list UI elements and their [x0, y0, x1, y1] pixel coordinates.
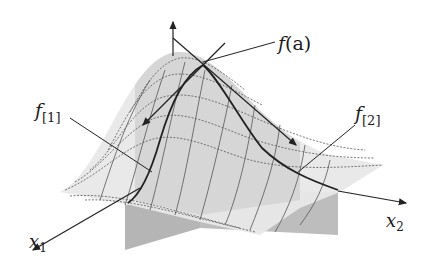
surface-diagram: f(a) f[1] f[2] x1 x2: [0, 0, 435, 265]
label-f1: f[1]: [33, 99, 60, 125]
axis-x2: [338, 191, 406, 203]
axis-x1: [33, 188, 140, 250]
label-f-a: f(a): [276, 32, 311, 54]
label-x2: x2: [386, 210, 404, 234]
leader-f-a: [203, 42, 275, 62]
label-f2: f[2]: [353, 102, 380, 128]
label-x1: x1: [29, 231, 47, 255]
